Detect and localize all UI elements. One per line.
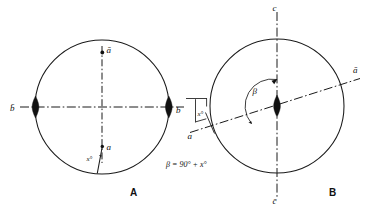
- panel-b-caption: B: [329, 187, 336, 198]
- panel-b-beta-label: β: [252, 86, 258, 96]
- panel-b-a-bar-label: ā: [353, 65, 358, 75]
- panel-a-x-angle-tick: [99, 156, 102, 157]
- panel-a-group: b̄ b ā a x° A: [10, 40, 184, 198]
- panel-a-x-angle-trace: [97, 148, 102, 173]
- panel-b-group: c c̄ ā a β x° B: [186, 3, 360, 206]
- panel-a-lens-marker-left: [32, 96, 39, 118]
- panel-a-a-pole-dot: [101, 145, 104, 148]
- panel-b-x-angle-label: x°: [197, 110, 204, 118]
- figure-container: b̄ b ā a x° A: [0, 0, 371, 210]
- crystal-axis-diagram: b̄ b ā a x° A: [0, 0, 371, 210]
- panel-b-a-trace-segment: [206, 113, 215, 134]
- panel-a-lens-marker-right: [165, 96, 172, 118]
- panel-b-beta-arc: [245, 79, 277, 123]
- panel-a-a-bar-pole-dot: [100, 51, 104, 55]
- panel-b-x-angle-bracket: [196, 119, 207, 122]
- beta-formula: β = 90° + x°: [165, 160, 208, 169]
- panel-b-lens-marker-center: [274, 95, 281, 117]
- panel-a-a-label: a: [107, 142, 112, 152]
- panel-a-a-bar-label: ā: [107, 45, 112, 55]
- panel-a-x-angle-label: x°: [86, 155, 93, 163]
- panel-a-b-label: b: [176, 105, 181, 115]
- panel-b-c-bar-label: c̄: [273, 196, 278, 206]
- panel-a-b-bar-label: b̄: [10, 103, 15, 113]
- panel-b-a-label: a: [188, 131, 193, 141]
- panel-b-c-label: c: [273, 3, 277, 13]
- panel-a-caption: A: [130, 187, 137, 198]
